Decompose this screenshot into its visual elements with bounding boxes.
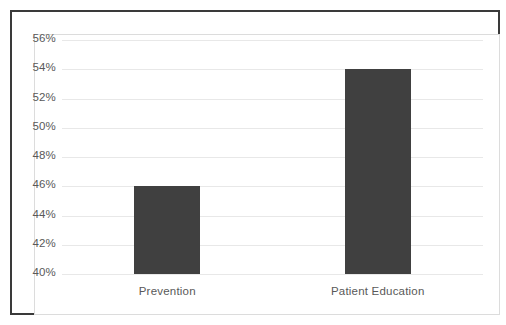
gridline	[62, 274, 483, 275]
gridline	[62, 40, 483, 41]
gridline	[62, 69, 483, 70]
y-axis-tick-label: 50%	[32, 120, 56, 132]
bar[interactable]	[345, 69, 411, 274]
y-axis-tick-label: 42%	[32, 237, 56, 249]
gridline	[62, 216, 483, 217]
x-axis-tick-label: Prevention	[62, 285, 273, 297]
y-axis-tick-label: 54%	[32, 61, 56, 73]
y-axis-tick-label: 56%	[32, 32, 56, 44]
y-axis-tick-label: 44%	[32, 208, 56, 220]
y-axis-tick-label: 40%	[32, 266, 56, 278]
plot-area	[62, 40, 483, 274]
y-axis-tick-labels: 56%54%52%50%48%46%44%42%40%	[26, 40, 56, 274]
y-axis-tick-label: 52%	[32, 91, 56, 103]
gridline	[62, 245, 483, 246]
gridline	[62, 157, 483, 158]
chart-figure: 56%54%52%50%48%46%44%42%40% PreventionPa…	[0, 0, 506, 325]
gridline	[62, 186, 483, 187]
gridline	[62, 99, 483, 100]
gridline	[62, 128, 483, 129]
y-axis-tick-label: 46%	[32, 178, 56, 190]
bar[interactable]	[134, 186, 200, 274]
y-axis-tick-label: 48%	[32, 149, 56, 161]
x-axis-tick-label: Patient Education	[273, 285, 484, 297]
